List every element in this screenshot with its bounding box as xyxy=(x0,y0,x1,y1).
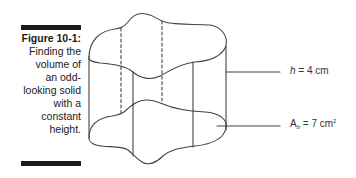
area-superscript: 2 xyxy=(333,118,336,124)
base-area-label: Ab = 7 cm2 xyxy=(290,118,336,130)
area-var: A xyxy=(290,118,297,129)
odd-solid-diagram xyxy=(0,0,356,178)
area-value: = 7 cm xyxy=(300,118,333,129)
bottom-face xyxy=(89,100,226,164)
top-face xyxy=(89,13,226,78)
height-label: h = 4 cm xyxy=(290,65,329,76)
height-value: = 4 cm xyxy=(296,65,329,76)
